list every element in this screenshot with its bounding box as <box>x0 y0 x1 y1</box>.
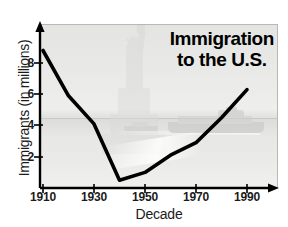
ship-deck <box>178 116 252 124</box>
torch-icon <box>137 24 145 34</box>
x-tick-label-1950: 1950 <box>132 190 158 204</box>
immigration-line-chart: 8 6 4 2 1910 1930 1950 1970 1990 Decade … <box>0 0 288 227</box>
x-tick-label-1970: 1970 <box>183 190 209 204</box>
chart-title-line-2: to the U.S. <box>170 49 274 70</box>
x-tick-label-1990: 1990 <box>234 190 260 204</box>
x-tick-label-1930: 1930 <box>81 190 107 204</box>
statue-base <box>118 88 150 118</box>
x-axis-title: Decade <box>40 206 278 222</box>
chart-title: Immigration to the U.S. <box>170 28 274 71</box>
small-boat-cabin <box>132 122 148 127</box>
ship-funnel <box>226 107 237 112</box>
chart-title-line-1: Immigration <box>170 28 274 49</box>
x-tick-label-1910: 1910 <box>30 190 56 204</box>
small-boat-icon <box>124 122 158 131</box>
y-axis-title: Immigrants (in millions) <box>16 22 32 194</box>
